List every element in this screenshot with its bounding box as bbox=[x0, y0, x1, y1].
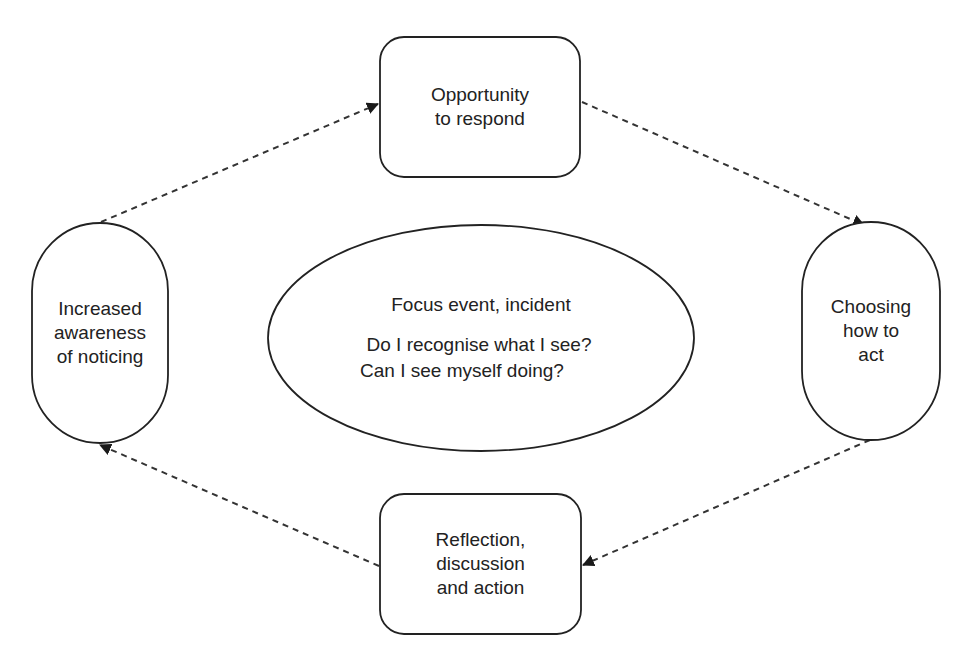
edge-bottom-to-left bbox=[100, 445, 379, 566]
node-center-label: Focus event, incident Do I recognise wha… bbox=[268, 225, 694, 451]
node-center-question-1: Do I recognise what I see? bbox=[367, 332, 592, 358]
node-left-line-1: Increased bbox=[58, 297, 141, 321]
node-bottom-line-2: discussion bbox=[436, 552, 525, 576]
node-top-line-1: Opportunity bbox=[431, 83, 529, 107]
node-left-line-3: of noticing bbox=[57, 345, 144, 369]
node-right-line-2: how to bbox=[843, 319, 899, 343]
node-top-line-2: to respond bbox=[435, 107, 525, 131]
node-center-question-2: Can I see myself doing? bbox=[360, 358, 564, 384]
node-bottom-label: Reflection, discussion and action bbox=[380, 494, 581, 634]
edge-right-to-bottom bbox=[583, 440, 870, 565]
edge-left-to-top bbox=[101, 104, 378, 222]
edge-top-to-right bbox=[582, 102, 864, 225]
node-right-line-3: act bbox=[858, 343, 883, 367]
node-right-label: Choosing how to act bbox=[802, 222, 940, 440]
node-bottom-line-3: and action bbox=[437, 576, 525, 600]
node-right-line-1: Choosing bbox=[831, 295, 911, 319]
node-top-label: Opportunity to respond bbox=[380, 37, 580, 177]
node-left-line-2: awareness bbox=[54, 321, 146, 345]
node-left-label: Increased awareness of noticing bbox=[32, 223, 168, 443]
node-center-title: Focus event, incident bbox=[391, 292, 571, 318]
node-bottom-line-1: Reflection, bbox=[436, 528, 526, 552]
